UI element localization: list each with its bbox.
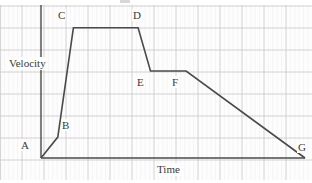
x-axis-title: Time [155, 163, 182, 176]
page-bottom-edge [0, 180, 312, 183]
point-label-d: D [132, 9, 142, 21]
point-label-g: G [297, 141, 307, 153]
scan-smudge [120, 0, 130, 3]
point-label-f: F [171, 76, 179, 88]
point-label-c: C [57, 9, 66, 21]
point-label-e: E [136, 76, 145, 88]
point-label-b: B [61, 119, 70, 131]
page-top-edge [0, 0, 312, 5]
velocity-curve [41, 28, 305, 158]
y-axis-title: Velocity [7, 57, 48, 70]
velocity-time-plot [0, 0, 312, 183]
point-label-a: A [20, 139, 30, 151]
velocity-time-graph-figure: Velocity Time A B C D E F G [0, 0, 312, 183]
